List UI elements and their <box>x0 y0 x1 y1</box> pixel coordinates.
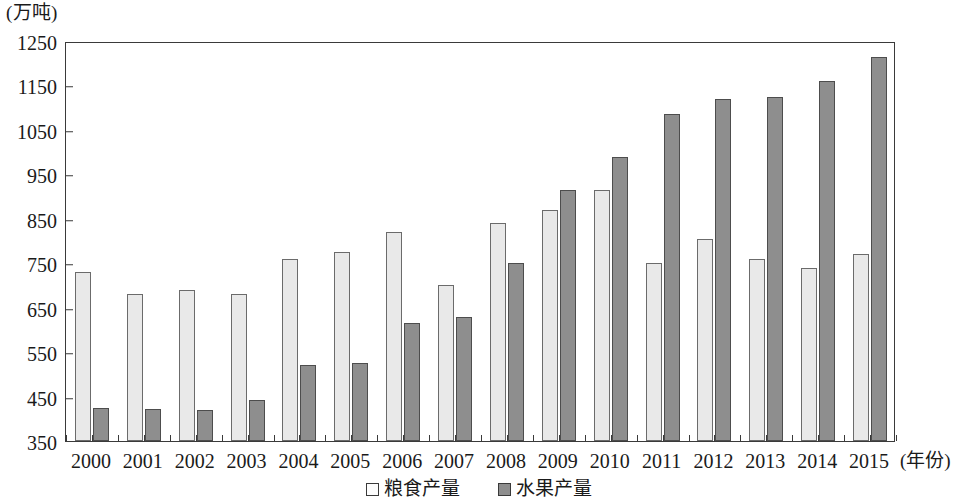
bar-fruit-2005 <box>352 363 368 441</box>
y-axis-tick-label: 1050 <box>17 122 66 142</box>
y-axis-tick-label: 550 <box>27 344 66 364</box>
x-axis-tickmark <box>714 435 715 441</box>
legend-swatch-fruit-icon <box>498 483 511 496</box>
x-axis-tick-label-2013: 2013 <box>745 448 785 474</box>
x-axis-tick-label-2001: 2001 <box>123 448 163 474</box>
y-axis-tick-label: 650 <box>27 300 66 320</box>
bar-chart-figure: (万吨) 350450550650750850950105011501250 2… <box>0 0 958 504</box>
x-axis-tickmark <box>481 435 482 441</box>
x-axis-tick-label-2015: 2015 <box>849 448 889 474</box>
x-axis-tick-label-2008: 2008 <box>486 448 526 474</box>
x-axis-tickmark <box>248 435 249 441</box>
x-axis-tickmark <box>507 435 508 441</box>
chart-legend: 粮食产量 水果产量 <box>0 478 958 500</box>
x-axis-tickmark <box>403 435 404 441</box>
bars-layer <box>66 43 894 441</box>
bar-grain-2015 <box>853 254 869 441</box>
x-axis-tickmark <box>663 435 664 441</box>
x-axis-tickmark <box>325 435 326 441</box>
x-axis-tickmark <box>792 435 793 441</box>
x-axis-tick-labels: 2000200120022003200420052006200720082009… <box>65 448 895 476</box>
bar-fruit-2009 <box>560 190 576 441</box>
bar-grain-2005 <box>334 252 350 441</box>
bar-fruit-2011 <box>664 114 680 441</box>
bar-grain-2004 <box>282 259 298 441</box>
x-axis-tickmark <box>818 435 819 441</box>
x-axis-tick-label-2000: 2000 <box>71 448 111 474</box>
x-axis-tickmark <box>222 435 223 441</box>
x-axis-tickmark <box>689 435 690 441</box>
x-axis-tickmark <box>351 435 352 441</box>
y-axis-tick-label: 1250 <box>17 33 66 53</box>
x-axis-tickmark <box>92 435 93 441</box>
legend-entry-grain: 粮食产量 <box>366 478 460 500</box>
x-axis-tickmark <box>766 435 767 441</box>
x-axis-tick-label-2002: 2002 <box>175 448 215 474</box>
plot-area: 350450550650750850950105011501250 <box>65 42 895 442</box>
bar-grain-2003 <box>231 294 247 441</box>
y-axis-tick-label: 750 <box>27 255 66 275</box>
bar-grain-2000 <box>75 272 91 441</box>
x-axis-tickmark <box>870 435 871 441</box>
x-axis-tick-label-2004: 2004 <box>278 448 318 474</box>
x-axis-tickmark <box>144 435 145 441</box>
x-axis-tickmark <box>637 435 638 441</box>
x-axis-tickmark <box>533 435 534 441</box>
x-axis-tick-label-2011: 2011 <box>642 448 681 474</box>
legend-swatch-grain-icon <box>366 483 379 496</box>
x-axis-tickmark <box>611 435 612 441</box>
y-axis-unit-label: (万吨) <box>6 2 57 24</box>
x-axis-tickmark <box>299 435 300 441</box>
bar-fruit-2000 <box>93 408 109 441</box>
y-axis-tick-label: 950 <box>27 166 66 186</box>
y-axis-tick-label: 350 <box>27 433 66 453</box>
bar-fruit-2004 <box>300 365 316 441</box>
bar-grain-2001 <box>127 294 143 441</box>
x-axis-tickmark <box>196 435 197 441</box>
legend-entry-fruit: 水果产量 <box>498 478 592 500</box>
x-axis-tickmark <box>559 435 560 441</box>
bar-fruit-2014 <box>819 81 835 441</box>
x-axis-tickmark <box>170 435 171 441</box>
x-axis-tickmark <box>66 435 67 441</box>
x-axis-tick-label-2014: 2014 <box>797 448 837 474</box>
bar-fruit-2013 <box>767 97 783 441</box>
x-axis-tick-label-2010: 2010 <box>590 448 630 474</box>
bar-fruit-2015 <box>871 57 887 441</box>
bar-grain-2009 <box>542 210 558 441</box>
legend-label-grain: 粮食产量 <box>384 478 460 500</box>
bar-fruit-2012 <box>715 99 731 441</box>
bar-fruit-2007 <box>456 317 472 441</box>
bar-grain-2010 <box>594 190 610 441</box>
bar-fruit-2008 <box>508 263 524 441</box>
bar-fruit-2003 <box>249 400 265 441</box>
bar-grain-2012 <box>697 239 713 441</box>
x-axis-tickmark <box>429 435 430 441</box>
x-axis-tickmark <box>740 435 741 441</box>
bar-fruit-2010 <box>612 157 628 441</box>
x-axis-tick-label-2006: 2006 <box>382 448 422 474</box>
x-axis-tick-label-2009: 2009 <box>538 448 578 474</box>
bar-fruit-2002 <box>197 410 213 441</box>
x-axis-unit-label: (年份) <box>900 448 951 474</box>
legend-label-fruit: 水果产量 <box>516 478 592 500</box>
x-axis-tickmark <box>896 435 897 441</box>
x-axis-tickmark <box>377 435 378 441</box>
bar-fruit-2001 <box>145 409 161 441</box>
y-axis-tick-label: 1150 <box>18 77 66 97</box>
x-axis-tick-label-2012: 2012 <box>693 448 733 474</box>
bar-grain-2007 <box>438 285 454 441</box>
x-axis-tick-label-2005: 2005 <box>330 448 370 474</box>
bar-fruit-2006 <box>404 323 420 441</box>
x-axis-tickmark <box>844 435 845 441</box>
bar-grain-2006 <box>386 232 402 441</box>
y-axis-tick-label: 850 <box>27 211 66 231</box>
x-axis-tickmark <box>585 435 586 441</box>
bar-grain-2013 <box>749 259 765 441</box>
y-axis-tick-label: 450 <box>27 389 66 409</box>
x-axis-tickmark <box>118 435 119 441</box>
bar-grain-2002 <box>179 290 195 441</box>
x-axis-tickmark <box>455 435 456 441</box>
bar-grain-2011 <box>646 263 662 441</box>
x-axis-tickmark <box>274 435 275 441</box>
